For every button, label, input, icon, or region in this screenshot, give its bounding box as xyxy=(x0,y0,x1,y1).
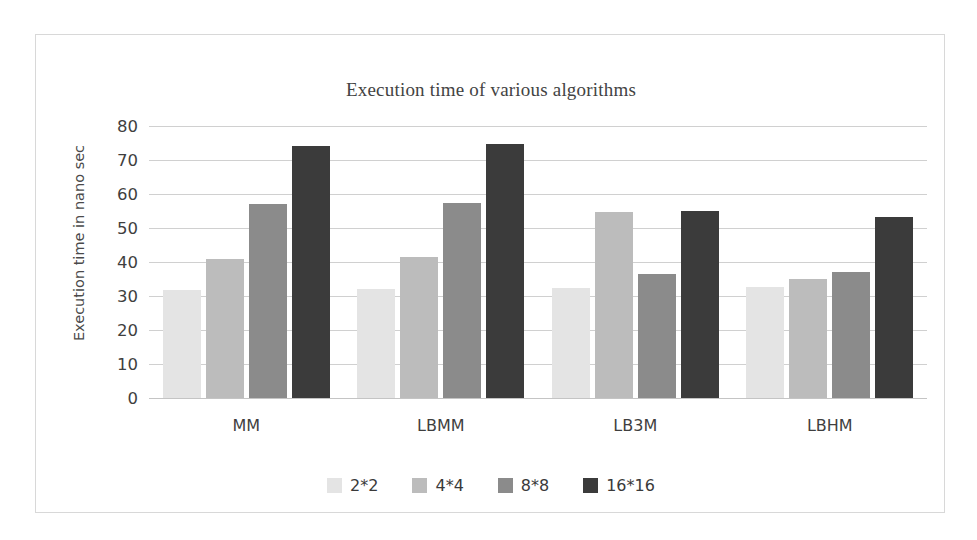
legend-label: 2*2 xyxy=(350,476,378,495)
chart-title: Execution time of various algorithms xyxy=(36,79,946,101)
legend-item[interactable]: 16*16 xyxy=(583,476,655,495)
legend-swatch-icon xyxy=(412,478,427,493)
x-axis-category-label: LBHM xyxy=(807,416,853,435)
x-axis-category-label: MM xyxy=(232,416,260,435)
bars-layer xyxy=(149,126,927,398)
x-axis-category-label: LBMM xyxy=(417,416,465,435)
bar[interactable] xyxy=(789,279,827,398)
y-axis-tick-label: 20 xyxy=(117,321,138,340)
y-axis-tick-label: 0 xyxy=(128,389,139,408)
y-axis-tick-label: 70 xyxy=(117,151,138,170)
bar[interactable] xyxy=(595,212,633,398)
y-axis-tick-label: 40 xyxy=(117,253,138,272)
bar-group xyxy=(357,126,524,398)
legend-swatch-icon xyxy=(327,478,342,493)
bar[interactable] xyxy=(357,289,395,398)
bar[interactable] xyxy=(206,259,244,398)
figure-frame: Execution time of various algorithms Exe… xyxy=(35,34,945,513)
legend-swatch-icon xyxy=(498,478,513,493)
bar[interactable] xyxy=(249,204,287,398)
plot-area: 01020304050607080 MMLBMMLB3MLBHM xyxy=(149,126,927,398)
chart-legend: 2*24*48*816*16 xyxy=(36,476,946,495)
legend-item[interactable]: 2*2 xyxy=(327,476,378,495)
legend-swatch-icon xyxy=(583,478,598,493)
bar-group xyxy=(552,126,719,398)
bar-group xyxy=(163,126,330,398)
y-axis-tick-label: 80 xyxy=(117,117,138,136)
bar[interactable] xyxy=(681,211,719,398)
legend-item[interactable]: 4*4 xyxy=(412,476,463,495)
y-axis-tick-label: 10 xyxy=(117,355,138,374)
x-axis-category-label: LB3M xyxy=(613,416,657,435)
bar[interactable] xyxy=(400,257,438,398)
bar[interactable] xyxy=(486,144,524,398)
y-axis-tick-label: 50 xyxy=(117,219,138,238)
chart-page: Execution time of various algorithms Exe… xyxy=(0,0,977,540)
gridline xyxy=(149,398,927,399)
bar[interactable] xyxy=(163,290,201,398)
legend-label: 4*4 xyxy=(435,476,463,495)
legend-item[interactable]: 8*8 xyxy=(498,476,549,495)
bar[interactable] xyxy=(552,288,590,398)
bar[interactable] xyxy=(638,274,676,398)
y-axis-tick-label: 60 xyxy=(117,185,138,204)
bar[interactable] xyxy=(292,146,330,398)
legend-label: 16*16 xyxy=(606,476,655,495)
bar[interactable] xyxy=(875,217,913,398)
legend-label: 8*8 xyxy=(521,476,549,495)
bar[interactable] xyxy=(443,203,481,399)
bar[interactable] xyxy=(832,272,870,398)
bar-group xyxy=(746,126,913,398)
y-axis-title: Execution time in nano sec xyxy=(71,128,87,358)
bar[interactable] xyxy=(746,287,784,398)
y-axis-tick-label: 30 xyxy=(117,287,138,306)
